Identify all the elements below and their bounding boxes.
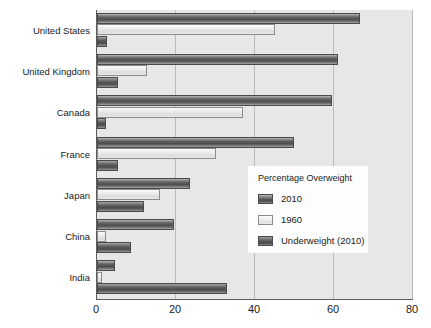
bar [97, 77, 118, 88]
bar [97, 118, 106, 129]
chart-legend: Percentage Overweight 2010 1960 Underwei… [248, 166, 368, 253]
x-tick-label: 60 [327, 303, 339, 316]
bar [97, 65, 147, 76]
legend-swatch-2010 [258, 194, 273, 204]
bar [97, 260, 115, 271]
bar [97, 148, 216, 159]
bar [97, 189, 160, 200]
grouped-bar-chart: United StatesUnited KingdomCanadaFranceJ… [0, 0, 431, 328]
category-label: Japan [64, 190, 90, 201]
x-tick-label: 0 [93, 303, 99, 316]
legend-title: Percentage Overweight [258, 173, 352, 184]
bar [97, 272, 102, 283]
bar [97, 219, 174, 230]
x-axis-line [96, 299, 413, 300]
bar [97, 107, 243, 118]
legend-swatch-underweight [258, 236, 273, 246]
x-tick-label: 20 [169, 303, 181, 316]
x-tick-label: 40 [248, 303, 260, 316]
bar [97, 137, 294, 148]
bar [97, 54, 338, 65]
bar [97, 36, 107, 47]
bar [97, 283, 227, 294]
legend-swatch-1960 [258, 215, 273, 225]
bar [97, 231, 106, 242]
category-label: India [69, 272, 90, 283]
category-label: United States [33, 25, 90, 36]
bar [97, 95, 332, 106]
bar [97, 178, 190, 189]
category-label: France [60, 149, 90, 160]
gridline-80 [412, 10, 413, 299]
bar [97, 201, 144, 212]
bar [97, 13, 360, 24]
category-label: China [65, 231, 90, 242]
legend-label-underweight: Underweight (2010) [281, 235, 364, 247]
category-label: Canada [57, 107, 90, 118]
x-tick-label: 80 [406, 303, 418, 316]
bar [97, 24, 275, 35]
legend-label-1960: 1960 [281, 214, 302, 226]
bar [97, 160, 118, 171]
legend-label-2010: 2010 [281, 193, 302, 205]
category-label: United Kingdom [22, 66, 90, 77]
bar [97, 242, 131, 253]
